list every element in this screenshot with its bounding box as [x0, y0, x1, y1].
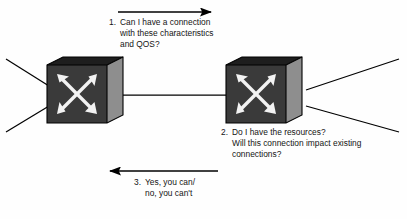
note-2-number: 2. — [221, 127, 232, 138]
switch-right[interactable] — [226, 57, 302, 123]
note-1: 1.Can I have a connection with these cha… — [109, 17, 214, 50]
note-3: 3.Yes, you can/ no, you can't — [134, 177, 195, 199]
note-3-number: 3. — [134, 177, 145, 188]
note-1-text-2: with these characteristics — [109, 28, 214, 39]
switch-left[interactable] — [47, 57, 123, 123]
note-1-text-1: Can I have a connection — [120, 17, 210, 27]
note-2-line-1: 2.Do I have the resources? — [221, 127, 361, 138]
diagram-canvas: 1.Can I have a connection with these cha… — [0, 0, 407, 219]
note-1-text-3: and QOS? — [109, 39, 214, 50]
switch-left-external-links — [6, 59, 49, 132]
note-1-line-1: 1.Can I have a connection — [109, 17, 214, 28]
note-3-text-2: no, you can't — [134, 188, 195, 199]
note-3-line-1: 3.Yes, you can/ — [134, 177, 195, 188]
note-2: 2.Do I have the resources? Will this con… — [221, 127, 361, 160]
note-2-text-3: connections? — [221, 149, 361, 160]
note-2-text-2: Will this connection impact existing — [221, 138, 361, 149]
note-2-text-1: Do I have the resources? — [232, 127, 326, 137]
note-3-text-1: Yes, you can/ — [145, 177, 195, 187]
switch-right-external-links — [306, 59, 399, 132]
note-1-number: 1. — [109, 17, 120, 28]
